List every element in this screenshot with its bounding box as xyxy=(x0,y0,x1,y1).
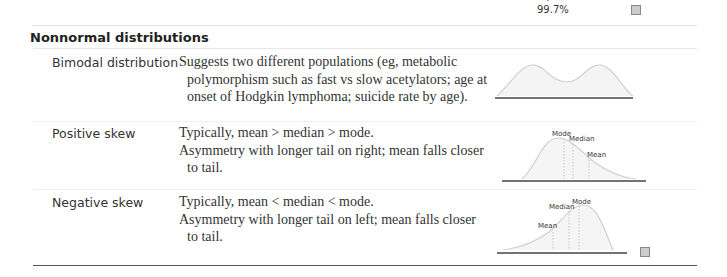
description-line: Typically, mean > median > mode. xyxy=(179,124,489,142)
divider xyxy=(33,121,697,122)
divider xyxy=(33,25,697,26)
image-icon[interactable] xyxy=(631,5,641,15)
mode-marker-label: Mode xyxy=(572,198,591,206)
mean-marker-label: Mean xyxy=(587,151,606,159)
description-line: Suggests two different populations (eg, … xyxy=(179,53,489,106)
divider xyxy=(33,189,697,190)
description-line: Typically, mean < median < mode. xyxy=(179,193,489,211)
row-label-positive-skew: Positive skew xyxy=(52,126,135,141)
positive-skew-curve-figure: Mode Median Mean xyxy=(498,128,648,180)
description-line: Asymmetry with longer tail on right; mea… xyxy=(179,142,489,177)
row-label-negative-skew: Negative skew xyxy=(52,195,143,210)
row-label-bimodal: Bimodal distribution xyxy=(52,55,178,70)
divider xyxy=(33,48,697,49)
row-description-negative-skew: Typically, mean < median < mode. Asymmet… xyxy=(179,193,489,246)
row-description-bimodal: Suggests two different populations (eg, … xyxy=(179,53,489,106)
median-marker-label: Median xyxy=(569,135,594,143)
section-title: Nonnormal distributions xyxy=(30,30,209,45)
image-icon[interactable] xyxy=(640,247,650,257)
negative-skew-curve-figure: Mean Median Mode xyxy=(497,196,637,252)
description-line: Asymmetry with longer tail on left; mean… xyxy=(179,211,489,246)
bimodal-curve-figure xyxy=(495,60,635,102)
caret-glyph: ∨ xyxy=(545,0,551,3)
median-marker-label: Median xyxy=(549,203,574,211)
mean-marker-label: Mean xyxy=(538,222,557,230)
divider xyxy=(33,265,697,266)
percent-value: 99.7% xyxy=(537,4,569,15)
row-description-positive-skew: Typically, mean > median > mode. Asymmet… xyxy=(179,124,489,177)
